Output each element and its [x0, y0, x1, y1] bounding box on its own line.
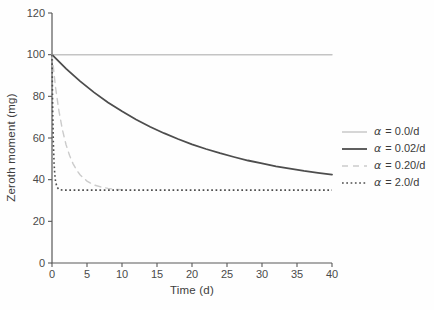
y-tick-label: 60: [33, 132, 45, 144]
x-tick-label: 40: [326, 268, 338, 280]
x-axis-title: Time (d): [52, 284, 332, 296]
y-tick-label: 120: [27, 7, 45, 19]
alpha-symbol: α: [374, 142, 381, 155]
x-tick-label: 30: [256, 268, 268, 280]
x-tick-label: 5: [84, 268, 90, 280]
data-series: [52, 55, 332, 190]
y-tick-label: 100: [27, 48, 45, 60]
x-tick-label: 35: [291, 268, 303, 280]
legend-line-sample: [341, 143, 368, 155]
x-tick-label: 0: [49, 268, 55, 280]
series-alpha-2.0: [52, 55, 332, 190]
legend-item: α = 2.0/d: [341, 174, 425, 191]
y-tick-label: 80: [33, 90, 45, 102]
series-alpha-0.02: [52, 55, 332, 175]
line-chart-figure: 0204060801001200510152025303540 Time (d)…: [0, 0, 434, 310]
axes: [48, 13, 332, 267]
y-axis-title: Zeroth moment (mg): [5, 63, 20, 233]
legend-line-sample: [341, 126, 368, 138]
x-tick-label: 10: [116, 268, 128, 280]
x-tick-label: 20: [186, 268, 198, 280]
legend-item: α = 0.02/d: [341, 140, 425, 157]
series-alpha-0.20: [52, 55, 122, 190]
legend-item: α = 0.20/d: [341, 157, 425, 174]
alpha-symbol: α: [374, 159, 381, 172]
y-tick-label: 0: [39, 257, 45, 269]
y-tick-label: 40: [33, 173, 45, 185]
legend-line-sample: [341, 177, 368, 189]
legend: α = 0.0/d α = 0.02/d α = 0.20/d: [341, 123, 425, 191]
legend-line-sample: [341, 160, 368, 172]
tick-labels: 0204060801001200510152025303540: [27, 7, 338, 281]
alpha-symbol: α: [374, 176, 381, 189]
legend-item-label: α = 0.02/d: [374, 142, 425, 155]
legend-item-label: α = 0.0/d: [374, 125, 419, 138]
legend-item: α = 0.0/d: [341, 123, 425, 140]
legend-item-label: α = 2.0/d: [374, 176, 419, 189]
legend-item-label: α = 0.20/d: [374, 159, 425, 172]
y-tick-label: 20: [33, 215, 45, 227]
x-tick-label: 15: [151, 268, 163, 280]
alpha-symbol: α: [374, 125, 381, 138]
x-tick-label: 25: [221, 268, 233, 280]
